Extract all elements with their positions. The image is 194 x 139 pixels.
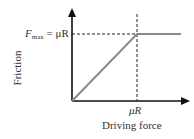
y-axis-label: Friction <box>11 51 23 86</box>
x-tick-label: μR <box>129 104 141 116</box>
x-axis-arrow-icon <box>181 97 190 105</box>
y-tick-label: Fmax = μR <box>25 27 69 41</box>
y-axis-arrow-icon <box>68 8 76 17</box>
friction-diagram <box>0 0 194 139</box>
x-axis-label: Driving force <box>102 119 162 131</box>
friction-curve <box>72 34 181 101</box>
